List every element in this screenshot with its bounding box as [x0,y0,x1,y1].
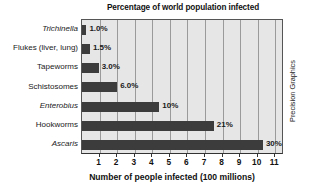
bar-value-label: 6.0% [120,81,138,90]
category-label: Schistosomes [0,82,78,91]
category-label: Flukes (liver, lung) [0,43,78,52]
tick-label-5: 5 [167,157,172,167]
bar [82,63,99,73]
category-label: Tapeworms [0,62,78,71]
chart-title: Percentage of world population infected [82,3,284,12]
tick-label-2: 2 [114,157,119,167]
category-label: Ascaris [0,139,78,148]
bar-row: 10% [82,97,282,116]
bar [82,44,90,54]
bar-row: 21% [82,116,282,135]
category-label: Enterobius [0,101,78,110]
tick-label-1: 1 [96,157,101,167]
category-label: Trichinella [0,24,78,33]
bar-row: 6.0% [82,78,282,97]
tick-label-4: 4 [149,157,154,167]
bar-chart-figure: Percentage of world population infected … [0,0,314,190]
bar [82,121,214,131]
bar [82,102,159,112]
tick-label-3: 3 [131,157,136,167]
bar-row: 3.0% [82,59,282,78]
x-axis-tick-labels: 1234567891011 [81,157,283,169]
bar-row: 1.5% [82,39,282,58]
credit-line: Precision Graphics [288,60,297,122]
tick-label-7: 7 [202,157,207,167]
bar [82,82,117,92]
tick-label-11: 11 [270,157,279,167]
bar-row: 1.0% [82,20,282,39]
tick-label-9: 9 [237,157,242,167]
bar-value-label: 1.5% [93,43,111,52]
bar [82,140,263,150]
category-axis-labels: TrichinellaFlukes (liver, lung)Tapeworms… [0,19,78,154]
bar-value-label: 3.0% [102,62,120,71]
bar-series: 1.0%1.5%3.0%6.0%10%21%30% [82,20,282,153]
tick-label-6: 6 [184,157,189,167]
bar-value-label: 10% [162,101,178,110]
bar-value-label: 1.0% [89,24,107,33]
bar-row: 30% [82,136,282,155]
bar-value-label: 21% [217,120,233,129]
category-label: Hookworms [0,120,78,129]
plot-area: 1.0%1.5%3.0%6.0%10%21%30% [81,19,283,154]
bar-value-label: 30% [266,139,282,148]
tick-label-10: 10 [252,157,261,167]
x-axis-title: Number of people infected (100 millions) [60,172,284,182]
tick-label-8: 8 [219,157,224,167]
bar [82,25,86,35]
